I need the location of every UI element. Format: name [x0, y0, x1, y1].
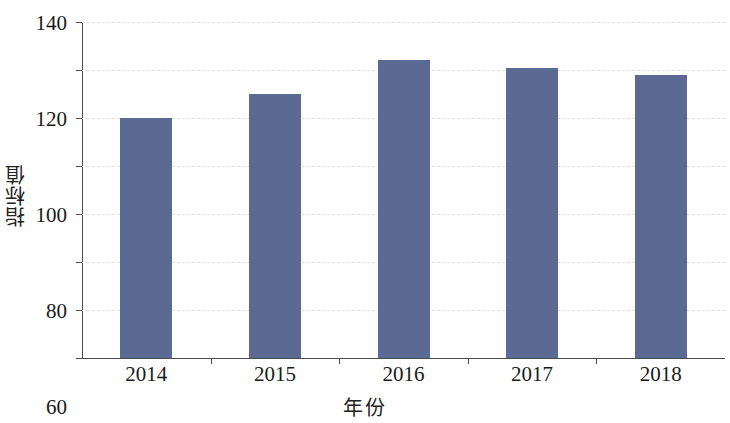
x-axis-tick-label-2014: 2014	[125, 364, 167, 385]
y-axis-tick-label: 100	[36, 205, 68, 226]
x-axis-tick-label-2016: 2016	[383, 364, 425, 385]
x-axis-tick	[596, 358, 597, 364]
y-axis-title-text: 指标值	[6, 164, 26, 227]
y-axis-tick: 100	[76, 118, 82, 119]
y-axis-tick: 40	[76, 262, 82, 263]
x-axis-tick-label-2017: 2017	[511, 364, 553, 385]
x-axis-tick	[211, 358, 212, 364]
bar-chart-figure: 指标值 020406080100120140 年份 20142015201620…	[0, 0, 730, 423]
bar-2015[interactable]	[249, 94, 301, 358]
y-axis-tick: 140	[76, 22, 82, 23]
x-axis-tick	[468, 358, 469, 364]
x-axis-tick-label-2015: 2015	[254, 364, 296, 385]
bar-2017[interactable]	[506, 68, 558, 358]
y-axis-title: 指标值	[0, 130, 32, 260]
y-axis-tick: 60	[76, 214, 82, 215]
x-axis-baseline	[82, 358, 725, 359]
y-axis-tick: 20	[76, 310, 82, 311]
bar-2018[interactable]	[635, 75, 687, 358]
y-axis-tick-label: 80	[46, 301, 67, 322]
x-axis-tick-label-2018: 2018	[640, 364, 682, 385]
bar-2016[interactable]	[378, 60, 430, 358]
x-axis-title: 年份	[0, 392, 730, 421]
y-axis-tick: 120	[76, 70, 82, 71]
y-axis-tick-label: 120	[36, 109, 68, 130]
gridline	[82, 22, 725, 23]
y-axis-tick: 80	[76, 166, 82, 167]
y-axis-tick: 0	[76, 358, 82, 359]
x-axis-tick	[339, 358, 340, 364]
plot-area: 020406080100120140	[82, 22, 725, 358]
bar-2014[interactable]	[120, 118, 172, 358]
y-axis-tick-label: 140	[36, 13, 68, 34]
